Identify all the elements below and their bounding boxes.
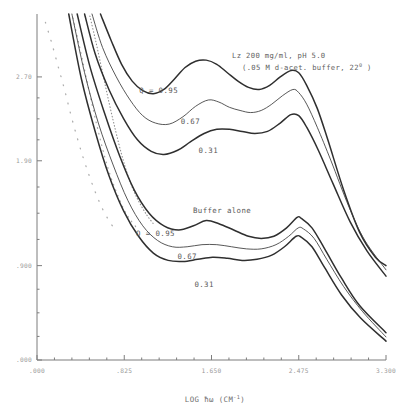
x-tick-label: 1.650	[201, 367, 221, 374]
x-tick-label: 2.475	[289, 367, 309, 374]
spectrum-curve	[77, 14, 386, 333]
y-tick-label: .900	[16, 262, 32, 269]
header-line-2: (.05 M d-acet. buffer, 220 )	[242, 62, 372, 72]
x-tick-label: .825	[116, 367, 132, 374]
label-q-bot-mid: 0.67	[177, 252, 196, 261]
spectra-plot: .000.8251.6502.4753.3002.701.90.900.000 …	[0, 0, 402, 415]
dotted-branch	[73, 18, 139, 230]
label-q-top: Q = 0.95	[139, 86, 178, 95]
label-q-bot-low: 0.31	[194, 280, 213, 289]
group-label-buffer: Buffer alone	[193, 206, 251, 215]
x-axis-title: LOG ħω (CM-1)	[185, 394, 245, 404]
x-tick-label: 3.300	[376, 367, 396, 374]
header-line-1: Lz 200 mg/ml, pH 5.0	[232, 51, 326, 60]
label-q-bot: Q = 0.95	[136, 229, 175, 238]
label-q-top-mid: 0.67	[181, 117, 200, 126]
plot-labels: Lz 200 mg/ml, pH 5.0(.05 M d-acet. buffe…	[136, 51, 372, 404]
figure-container: .000.8251.6502.4753.3002.701.90.900.000 …	[0, 0, 402, 415]
y-tick-label: .000	[16, 356, 32, 363]
y-tick-label: 1.90	[16, 157, 32, 164]
dotted-branch	[90, 16, 153, 224]
y-tick-label: 2.70	[16, 73, 32, 80]
label-q-top-low: 0.31	[199, 146, 218, 155]
x-tick-label: .000	[29, 367, 45, 374]
